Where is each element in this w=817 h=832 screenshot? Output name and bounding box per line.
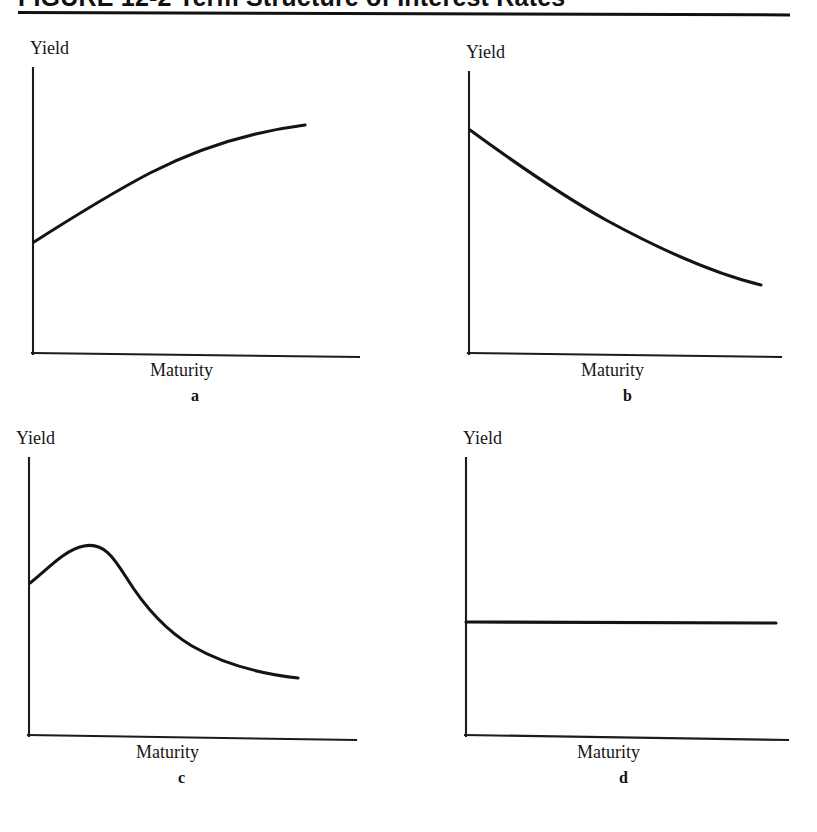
panel-c-letter: c xyxy=(178,769,185,787)
panel-c-yield-curve xyxy=(30,545,298,678)
page-title: FIGURE 12-2 Term Structure of Interest R… xyxy=(18,0,565,12)
panel-a-letter: a xyxy=(191,387,199,405)
panel-d-x-axis xyxy=(465,735,788,740)
panel-d-letter: d xyxy=(619,769,628,787)
panel-c-x-axis xyxy=(28,735,356,740)
panel-a-x-axis xyxy=(32,353,359,357)
panel-b-yield-curve xyxy=(470,130,761,285)
panel-b-letter: b xyxy=(623,387,632,405)
panel-b: Yield Maturity b xyxy=(436,34,817,420)
panel-d-yield-curve xyxy=(466,622,776,623)
figure-page: FIGURE 12-2 Term Structure of Interest R… xyxy=(0,0,817,832)
panel-b-x-axis xyxy=(468,353,781,357)
panel-b-x-axis-label: Maturity xyxy=(581,360,644,381)
panel-d: Yield Maturity d xyxy=(436,424,817,824)
panel-a: Yield Maturity a xyxy=(0,34,410,420)
panel-b-plot xyxy=(436,34,817,374)
panel-a-plot xyxy=(0,34,410,374)
panel-a-yield-curve xyxy=(34,125,305,242)
figure-title-block: FIGURE 12-2 Term Structure of Interest R… xyxy=(0,0,817,26)
panel-d-x-axis-label: Maturity xyxy=(577,742,640,763)
title-rule-divider xyxy=(18,11,790,16)
panel-d-plot xyxy=(436,424,817,764)
panel-c-plot xyxy=(0,424,410,764)
panel-a-x-axis-label: Maturity xyxy=(150,360,213,381)
panel-c: Yield Maturity c xyxy=(0,424,410,824)
panel-c-x-axis-label: Maturity xyxy=(136,742,199,763)
